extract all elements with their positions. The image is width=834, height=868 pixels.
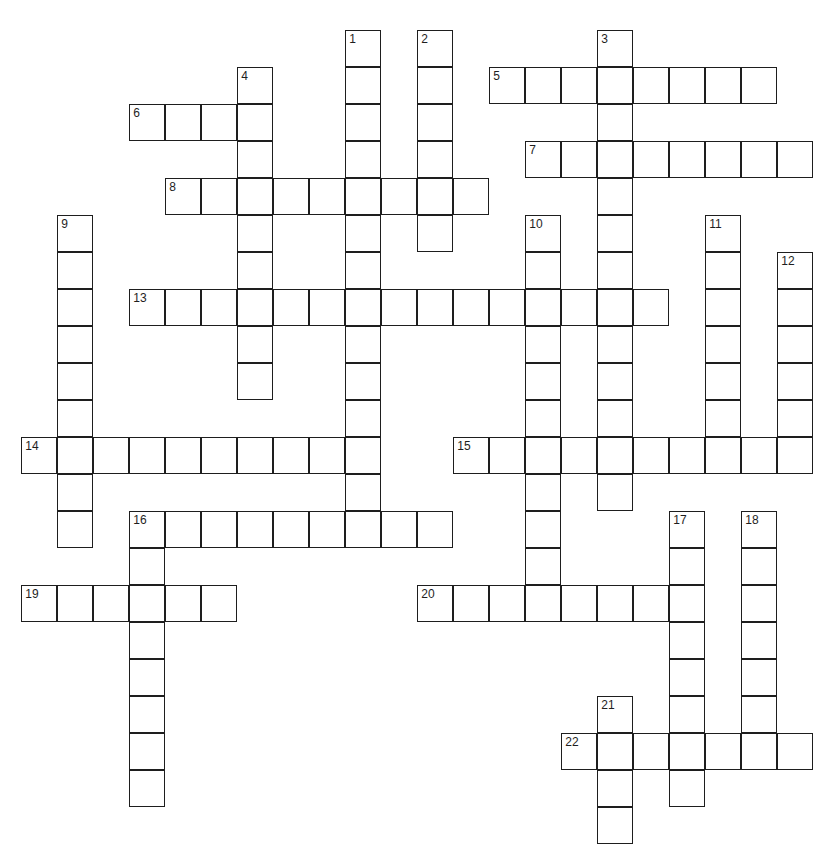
crossword-cell[interactable] <box>93 585 129 622</box>
crossword-cell[interactable] <box>417 511 453 548</box>
crossword-cell[interactable] <box>57 400 93 437</box>
crossword-cell[interactable] <box>237 326 273 363</box>
crossword-cell[interactable] <box>381 289 417 326</box>
crossword-cell[interactable] <box>345 104 381 141</box>
crossword-cell[interactable] <box>201 104 237 141</box>
crossword-cell[interactable] <box>345 400 381 437</box>
crossword-cell[interactable]: 17 <box>669 511 705 548</box>
crossword-cell[interactable]: 19 <box>21 585 57 622</box>
crossword-cell[interactable] <box>525 437 561 474</box>
crossword-cell[interactable] <box>705 437 741 474</box>
crossword-cell[interactable] <box>417 141 453 178</box>
crossword-cell[interactable] <box>273 437 309 474</box>
crossword-cell[interactable] <box>165 437 201 474</box>
crossword-cell[interactable] <box>669 696 705 733</box>
crossword-cell[interactable] <box>597 104 633 141</box>
crossword-cell[interactable] <box>525 585 561 622</box>
crossword-cell[interactable] <box>777 289 813 326</box>
crossword-cell[interactable] <box>525 289 561 326</box>
crossword-cell[interactable] <box>525 252 561 289</box>
crossword-cell[interactable] <box>633 289 669 326</box>
crossword-cell[interactable] <box>705 733 741 770</box>
crossword-cell[interactable] <box>309 437 345 474</box>
crossword-cell[interactable] <box>417 67 453 104</box>
crossword-cell[interactable] <box>741 548 777 585</box>
crossword-cell[interactable] <box>741 141 777 178</box>
crossword-cell[interactable]: 6 <box>129 104 165 141</box>
crossword-cell[interactable] <box>741 622 777 659</box>
crossword-cell[interactable] <box>417 104 453 141</box>
crossword-cell[interactable] <box>345 511 381 548</box>
crossword-cell[interactable] <box>597 289 633 326</box>
crossword-cell[interactable] <box>165 289 201 326</box>
crossword-cell[interactable] <box>669 659 705 696</box>
crossword-cell[interactable] <box>201 511 237 548</box>
crossword-cell[interactable]: 4 <box>237 67 273 104</box>
crossword-cell[interactable] <box>705 289 741 326</box>
crossword-cell[interactable] <box>705 141 741 178</box>
crossword-cell[interactable] <box>309 289 345 326</box>
crossword-cell[interactable] <box>129 733 165 770</box>
crossword-cell[interactable] <box>57 585 93 622</box>
crossword-cell[interactable] <box>345 215 381 252</box>
crossword-cell[interactable]: 18 <box>741 511 777 548</box>
crossword-cell[interactable] <box>345 141 381 178</box>
crossword-cell[interactable] <box>345 289 381 326</box>
crossword-cell[interactable]: 3 <box>597 30 633 67</box>
crossword-cell[interactable] <box>561 67 597 104</box>
crossword-cell[interactable] <box>741 67 777 104</box>
crossword-cell[interactable] <box>597 733 633 770</box>
crossword-cell[interactable] <box>345 67 381 104</box>
crossword-cell[interactable]: 22 <box>561 733 597 770</box>
crossword-cell[interactable] <box>345 178 381 215</box>
crossword-cell[interactable] <box>417 215 453 252</box>
crossword-cell[interactable] <box>525 400 561 437</box>
crossword-cell[interactable] <box>777 437 813 474</box>
crossword-cell[interactable] <box>597 67 633 104</box>
crossword-cell[interactable] <box>129 659 165 696</box>
crossword-cell[interactable] <box>273 289 309 326</box>
crossword-cell[interactable] <box>669 548 705 585</box>
crossword-cell[interactable] <box>741 696 777 733</box>
crossword-cell[interactable] <box>201 178 237 215</box>
crossword-cell[interactable] <box>597 400 633 437</box>
crossword-cell[interactable] <box>345 252 381 289</box>
crossword-cell[interactable] <box>633 67 669 104</box>
crossword-cell[interactable] <box>345 474 381 511</box>
crossword-cell[interactable] <box>597 437 633 474</box>
crossword-cell[interactable] <box>561 585 597 622</box>
crossword-cell[interactable] <box>345 437 381 474</box>
crossword-cell[interactable] <box>129 548 165 585</box>
crossword-cell[interactable] <box>741 437 777 474</box>
crossword-cell[interactable] <box>741 659 777 696</box>
crossword-cell[interactable]: 7 <box>525 141 561 178</box>
crossword-cell[interactable] <box>741 733 777 770</box>
crossword-cell[interactable] <box>489 437 525 474</box>
crossword-cell[interactable] <box>633 437 669 474</box>
crossword-cell[interactable] <box>237 104 273 141</box>
crossword-cell[interactable] <box>381 511 417 548</box>
crossword-cell[interactable] <box>705 400 741 437</box>
crossword-cell[interactable] <box>381 178 417 215</box>
crossword-cell[interactable] <box>129 696 165 733</box>
crossword-cell[interactable]: 9 <box>57 215 93 252</box>
crossword-cell[interactable]: 20 <box>417 585 453 622</box>
crossword-cell[interactable] <box>597 770 633 807</box>
crossword-cell[interactable] <box>561 437 597 474</box>
crossword-cell[interactable] <box>669 67 705 104</box>
crossword-cell[interactable] <box>165 585 201 622</box>
crossword-cell[interactable] <box>525 548 561 585</box>
crossword-cell[interactable] <box>237 178 273 215</box>
crossword-cell[interactable] <box>705 67 741 104</box>
crossword-cell[interactable]: 12 <box>777 252 813 289</box>
crossword-cell[interactable]: 21 <box>597 696 633 733</box>
crossword-cell[interactable] <box>669 622 705 659</box>
crossword-cell[interactable] <box>129 585 165 622</box>
crossword-cell[interactable] <box>597 585 633 622</box>
crossword-cell[interactable] <box>741 585 777 622</box>
crossword-cell[interactable] <box>597 474 633 511</box>
crossword-cell[interactable] <box>633 141 669 178</box>
crossword-cell[interactable]: 2 <box>417 30 453 67</box>
crossword-cell[interactable] <box>57 474 93 511</box>
crossword-cell[interactable] <box>453 178 489 215</box>
